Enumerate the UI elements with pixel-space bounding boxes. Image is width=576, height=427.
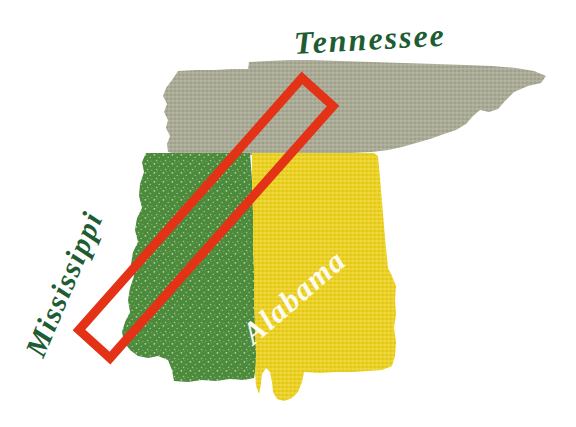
map-canvas — [0, 0, 576, 427]
tennessee-polygon — [163, 60, 546, 155]
state-map-figure: Tennessee Mississippi Alabama — [0, 0, 576, 427]
state-shape-alabama[interactable] — [252, 153, 396, 401]
state-shape-tennessee[interactable] — [163, 60, 546, 155]
alabama-polygon — [252, 153, 396, 401]
